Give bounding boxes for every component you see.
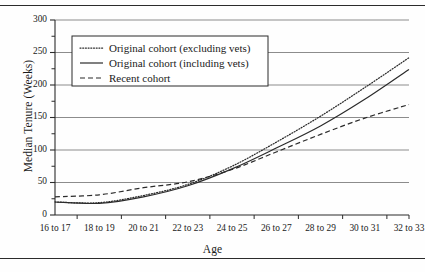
x-axis-title: Age bbox=[0, 243, 425, 255]
legend-label-1: Original cohort (including vets) bbox=[109, 57, 249, 70]
chart-legend: Original cohort (excluding vets)Original… bbox=[72, 36, 268, 86]
series-line-1 bbox=[55, 69, 409, 203]
figure-container: Original cohort (excluding vets)Original… bbox=[0, 0, 425, 272]
legend-label-0: Original cohort (excluding vets) bbox=[109, 42, 251, 55]
legend-label-2: Recent cohort bbox=[109, 72, 170, 84]
y-axis-title: Median Tenure (Weeks) bbox=[22, 16, 34, 216]
y-axis-ticks bbox=[50, 20, 55, 215]
x-axis-ticks bbox=[77, 215, 409, 219]
x-tick-label-8: 32 to 33 bbox=[383, 223, 425, 233]
